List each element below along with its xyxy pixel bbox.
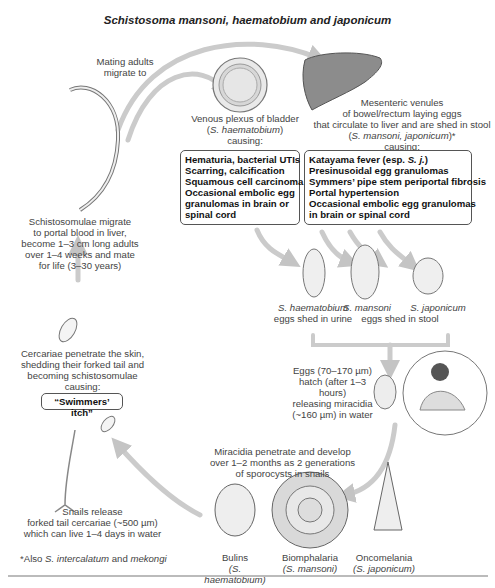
label-bladder: Venous plexus of bladder (S. haematobium… xyxy=(190,113,300,146)
label-eggs-japonicum: S. japonicum xyxy=(398,302,478,313)
label-mating: Mating adultsmigrate to xyxy=(90,56,160,78)
bladder-effects-box: Hematuria, bacterial UTIsScarring, calci… xyxy=(180,150,300,225)
snail-label-biomphalaria: Biomphalaria(S. mansoni) xyxy=(275,552,345,574)
label-miracidia: Miracidia penetrate and developover 1–2 … xyxy=(205,446,360,479)
egg-haematobium xyxy=(303,249,325,297)
mesenteric-effects-box: Katayama fever (esp. S. j.) Presinusoida… xyxy=(304,150,472,225)
label-mesenteric: Mesenteric venules of bowel/rectum layin… xyxy=(312,97,492,152)
egg-mansoni xyxy=(351,245,379,299)
snail-label-oncomelania: Oncomelania(S. japonicum) xyxy=(348,552,420,574)
label-eggs-stool: eggs shed in stool xyxy=(350,313,450,324)
bottom-divider xyxy=(8,575,488,577)
figure-title: Schistosoma mansoni, haematobium and jap… xyxy=(0,14,495,26)
label-schistosomulae: Schistosomulae migrateto portal blood in… xyxy=(0,216,160,271)
label-hatch: Eggs (70–170 µm)hatch (after 1–3 hours) … xyxy=(285,365,380,420)
footnote: *Also S. intercalatum and mekongi xyxy=(20,553,170,564)
label-snails-release: Snails releaseforked tail cercariae (~50… xyxy=(20,506,165,539)
lifecycle-illustration xyxy=(0,0,495,588)
label-eggs-mansoni: S. mansoni xyxy=(337,302,397,313)
egg-japonicum xyxy=(413,258,443,294)
bladder-illustration xyxy=(213,58,267,112)
label-cercariae: Cercariae penetrate the skin,shedding th… xyxy=(10,348,155,392)
swimmers-itch-box: “Swimmers’ itch” xyxy=(41,393,123,410)
snail-label-bulins: Bulins(S. haematobium) xyxy=(200,552,270,585)
snail-bulins xyxy=(215,484,255,536)
